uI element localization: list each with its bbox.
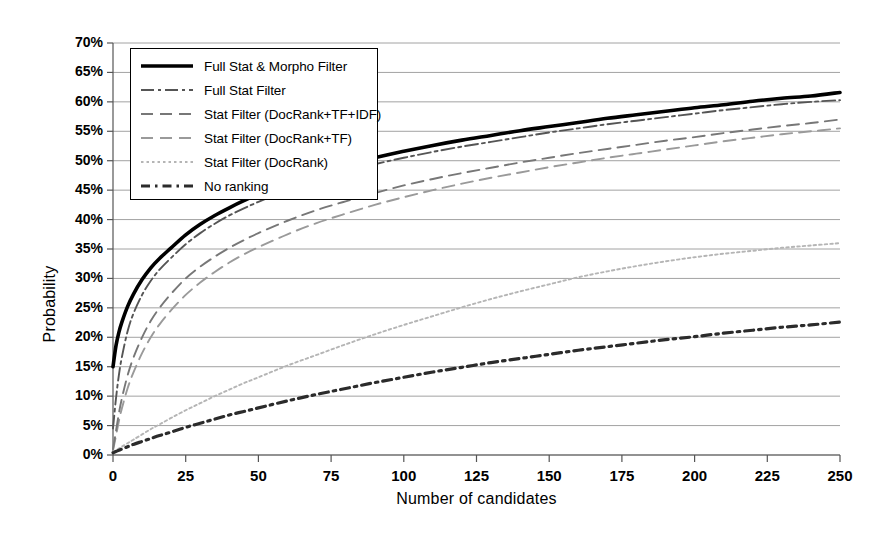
y-tick-label: 15% [41, 358, 103, 374]
series-line [113, 243, 840, 452]
legend-item-label: Full Stat & Morpho Filter [204, 59, 347, 74]
x-tick-label: 225 [737, 467, 797, 484]
legend-item: No ranking [131, 174, 377, 198]
x-tick-label: 100 [374, 467, 434, 484]
x-tick-label: 0 [83, 467, 143, 484]
legend-item-label: Stat Filter (DocRank) [204, 155, 328, 170]
y-tick-label: 40% [41, 211, 103, 227]
legend-item-label: Stat Filter (DocRank+TF) [204, 131, 352, 146]
y-tick-label: 70% [41, 34, 103, 50]
y-tick-label: 55% [41, 122, 103, 138]
probability-vs-candidates-chart: Probability Number of candidates 0%5%10%… [0, 0, 886, 534]
y-tick-label: 25% [41, 299, 103, 315]
x-tick-label: 250 [810, 467, 870, 484]
legend-item-label: Stat Filter (DocRank+TF+IDF) [204, 107, 381, 122]
legend-item: Stat Filter (DocRank+TF+IDF) [131, 102, 377, 126]
y-tick-label: 5% [41, 417, 103, 433]
y-tick-label: 50% [41, 152, 103, 168]
legend-item-label: No ranking [204, 179, 268, 194]
legend-item: Full Stat & Morpho Filter [131, 54, 377, 78]
x-axis-label: Number of candidates [113, 490, 840, 508]
y-tick-label: 10% [41, 387, 103, 403]
x-tick-label: 25 [156, 467, 216, 484]
legend-line-swatch-icon [139, 83, 195, 97]
x-tick-label: 150 [519, 467, 579, 484]
x-tick-label: 125 [447, 467, 507, 484]
x-tick-label: 75 [301, 467, 361, 484]
y-tick-label: 35% [41, 240, 103, 256]
y-tick-label: 0% [41, 446, 103, 462]
chart-legend: Full Stat & Morpho FilterFull Stat Filte… [130, 48, 378, 200]
legend-item: Stat Filter (DocRank+TF) [131, 126, 377, 150]
legend-line-swatch-icon [139, 59, 195, 73]
y-tick-label: 45% [41, 181, 103, 197]
y-tick-label: 20% [41, 328, 103, 344]
legend-item-label: Full Stat Filter [204, 83, 286, 98]
series-line [113, 322, 840, 453]
legend-item: Stat Filter (DocRank) [131, 150, 377, 174]
legend-line-swatch-icon [139, 179, 195, 193]
y-tick-label: 60% [41, 93, 103, 109]
x-tick-label: 175 [592, 467, 652, 484]
legend-line-swatch-icon [139, 155, 195, 169]
x-tick-label: 50 [228, 467, 288, 484]
legend-line-swatch-icon [139, 131, 195, 145]
x-tick-label: 200 [665, 467, 725, 484]
legend-line-swatch-icon [139, 107, 195, 121]
y-tick-label: 30% [41, 269, 103, 285]
y-tick-label: 65% [41, 63, 103, 79]
legend-item: Full Stat Filter [131, 78, 377, 102]
